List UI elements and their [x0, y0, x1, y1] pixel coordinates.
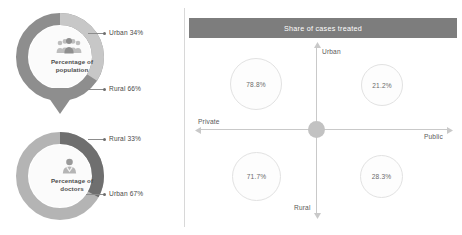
axis-arrow-right-icon	[446, 126, 453, 135]
donut-population-center-label: Percentage of population	[43, 58, 101, 73]
axis-arrow-left-icon	[195, 126, 202, 135]
label-urban-doctors: Urban 67%	[109, 190, 143, 197]
label-rural-population: Rural 66%	[109, 85, 141, 92]
donut-doctors-center-label: Percentage of doctors	[43, 177, 101, 192]
bubble-label-rural-public: 28.3%	[372, 173, 391, 180]
quadrant-header-bar: Share of cases treated	[189, 18, 457, 38]
bubble-rural-private: 71.7%	[232, 152, 281, 201]
donut-doctors-title-line2: doctors	[43, 185, 101, 193]
donut-doctors-title-line1: Percentage of	[43, 177, 101, 185]
people-group-icon	[56, 38, 82, 54]
leader-dot-urban-doctors	[103, 193, 106, 196]
donut-population-title-line2: population	[43, 66, 101, 74]
axis-arrow-down-icon	[313, 212, 322, 219]
right-panel-quadrant-chart: Share of cases treated Urban Rural Priva…	[186, 0, 462, 235]
doctor-icon	[62, 158, 77, 174]
bubble-urban-public: 21.2%	[361, 64, 403, 106]
label-urban-population: Urban 34%	[109, 29, 143, 36]
leader-dot-rural-doctors	[103, 138, 106, 141]
axis-center-hub	[308, 121, 325, 138]
bubble-label-urban-private: 78.8%	[246, 81, 265, 88]
donut-population-title-line1: Percentage of	[43, 58, 101, 66]
bubble-label-rural-private: 71.7%	[247, 173, 266, 180]
donut-doctors: Percentage of doctors	[12, 130, 108, 222]
axis-label-public: Public	[424, 133, 443, 140]
donut-population: Percentage of population	[12, 12, 108, 116]
donut-doctors-svg	[12, 130, 108, 222]
label-rural-doctors: Rural 33%	[109, 135, 141, 142]
panel-divider	[184, 8, 185, 227]
bubble-urban-private: 78.8%	[230, 58, 282, 110]
axis-arrow-up-icon	[313, 42, 322, 49]
axis-label-urban: Urban	[322, 48, 341, 55]
leader-dot-rural-population	[103, 88, 106, 91]
axis-label-rural: Rural	[294, 204, 311, 211]
infographic-page: Percentage of population Urban 34% Rural…	[0, 0, 462, 235]
left-panel-donuts: Percentage of population Urban 34% Rural…	[0, 0, 182, 235]
bubble-label-urban-public: 21.2%	[372, 82, 391, 89]
quadrant-header-title: Share of cases treated	[284, 24, 362, 33]
leader-dot-urban-population	[103, 32, 106, 35]
axis-label-private: Private	[198, 118, 220, 125]
bubble-rural-public: 28.3%	[360, 155, 403, 198]
donut-doctors-inner-disc	[29, 145, 91, 207]
donut-inner-disc	[29, 26, 91, 88]
